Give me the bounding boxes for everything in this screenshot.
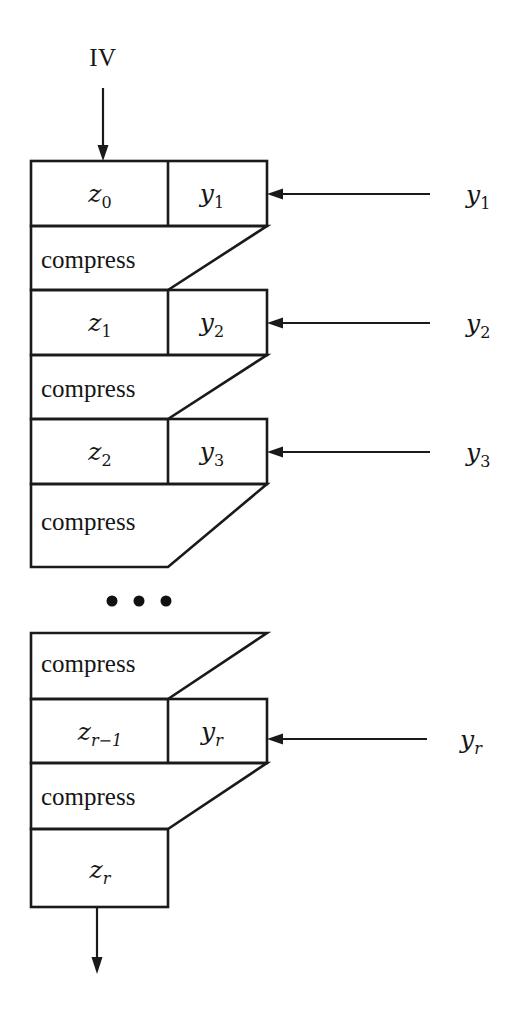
hash-chain-diagram: IV z0 y1 compress y1 xyxy=(0,0,512,1019)
stage-2-message-label: y2 xyxy=(199,308,224,341)
stage-r-output-label: zr xyxy=(89,855,112,888)
stage-3-register-box xyxy=(31,419,267,484)
stage-r-register-box xyxy=(31,699,267,763)
stage-r-lower-compress-label: compress xyxy=(41,783,135,810)
iv-label: IV xyxy=(89,44,116,71)
stage-r-state-label: zr−1 xyxy=(77,717,122,750)
stage-3-message-label: y3 xyxy=(199,437,224,470)
stage-3: z2 y3 compress y3 xyxy=(31,419,490,567)
stage-3-state-label: z2 xyxy=(87,437,111,470)
stage-1-input-arrow-head xyxy=(267,189,283,200)
stage-2-input-arrow-head xyxy=(267,318,283,329)
stage-2: z1 y2 compress y2 xyxy=(31,290,490,419)
stage-r-upper-compress-label: compress xyxy=(41,650,135,677)
ellipsis-dot-1 xyxy=(107,596,118,607)
stage-r-message-label: yr xyxy=(200,717,224,750)
stage-2-compress-label: compress xyxy=(41,375,135,402)
stage-r-input-arrow-head xyxy=(267,734,283,745)
iv-input-group: IV xyxy=(89,44,116,161)
stage-2-state-label: z1 xyxy=(87,308,111,341)
stage-1-message-label: y1 xyxy=(199,179,224,212)
ellipsis-dot-3 xyxy=(161,596,172,607)
iv-arrow-head xyxy=(98,145,109,161)
stage-3-input-arrow-head xyxy=(267,447,283,458)
ellipsis-dot-2 xyxy=(134,596,145,607)
output-arrow-head xyxy=(92,957,103,974)
stage-1-compress-label: compress xyxy=(41,246,135,273)
stage-1: z0 y1 compress y1 xyxy=(31,161,490,290)
stage-1-side-input-label: y1 xyxy=(465,180,490,213)
stage-r-side-input-label: yr xyxy=(459,725,483,758)
stage-3-side-input-label: y3 xyxy=(465,438,490,471)
stage-2-side-input-label: y2 xyxy=(465,309,490,342)
ellipsis-dots xyxy=(107,596,172,607)
diagram-canvas: IV z0 y1 compress y1 xyxy=(0,0,512,1019)
stage-1-state-label: z0 xyxy=(87,179,111,212)
stage-1-register-box xyxy=(31,161,267,226)
stage-r: compress zr−1 yr compress yr zr xyxy=(31,633,483,974)
stage-3-compress-label: compress xyxy=(41,508,135,535)
stage-2-register-box xyxy=(31,290,267,355)
